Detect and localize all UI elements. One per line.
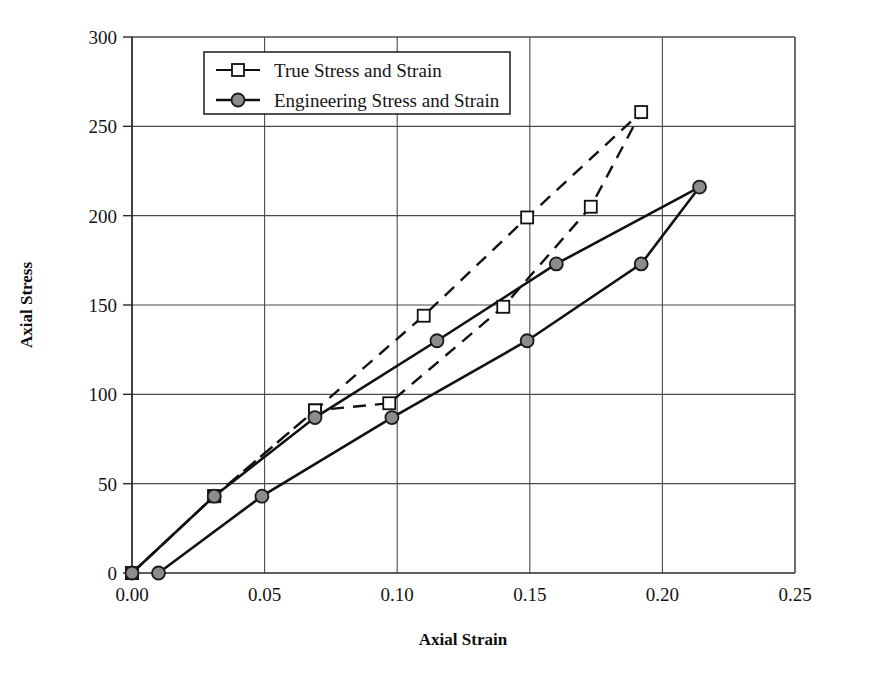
x-tick-label: 0.20 <box>646 584 679 605</box>
data-point-marker-square <box>383 397 395 409</box>
data-point-marker-circle <box>430 334 443 347</box>
data-point-marker-square <box>418 310 430 322</box>
x-tick-label: 0.05 <box>248 584 281 605</box>
y-tick-label: 250 <box>89 116 118 137</box>
stress-strain-chart: 0.000.050.100.150.200.250501001502002503… <box>0 0 892 678</box>
legend-label-0: True Stress and Strain <box>274 60 442 81</box>
legend-label-1: Engineering Stress and Strain <box>274 90 500 111</box>
chart-legend: True Stress and StrainEngineering Stress… <box>204 52 510 114</box>
data-point-marker-circle <box>308 411 321 424</box>
y-axis-title: Axial Stress <box>17 262 36 348</box>
y-tick-label: 300 <box>89 27 118 48</box>
y-tick-label: 150 <box>89 295 118 316</box>
data-point-marker-circle <box>693 181 706 194</box>
data-point-marker-circle <box>550 257 563 270</box>
y-tick-label: 50 <box>98 474 117 495</box>
data-point-marker-square <box>521 211 533 223</box>
data-point-marker-circle <box>208 490 221 503</box>
y-tick-label: 0 <box>108 563 118 584</box>
x-tick-label: 0.00 <box>115 584 148 605</box>
x-axis-title: Axial Strain <box>419 630 508 649</box>
x-tick-label: 0.15 <box>513 584 546 605</box>
legend-marker-circle <box>232 94 245 107</box>
x-tick-label: 0.25 <box>778 584 811 605</box>
y-tick-label: 200 <box>89 206 118 227</box>
data-point-marker-square <box>497 301 509 313</box>
data-point-marker-circle <box>521 334 534 347</box>
data-point-marker-circle <box>385 411 398 424</box>
data-point-marker-square <box>635 106 647 118</box>
data-point-marker-circle <box>126 567 139 580</box>
data-point-marker-circle <box>635 257 648 270</box>
x-tick-label: 0.10 <box>381 584 414 605</box>
y-tick-label: 100 <box>89 384 118 405</box>
data-point-marker-circle <box>152 567 165 580</box>
data-point-marker-circle <box>255 490 268 503</box>
legend-marker-square <box>232 64 244 76</box>
data-point-marker-square <box>585 201 597 213</box>
chart-canvas: 0.000.050.100.150.200.250501001502002503… <box>0 0 892 678</box>
